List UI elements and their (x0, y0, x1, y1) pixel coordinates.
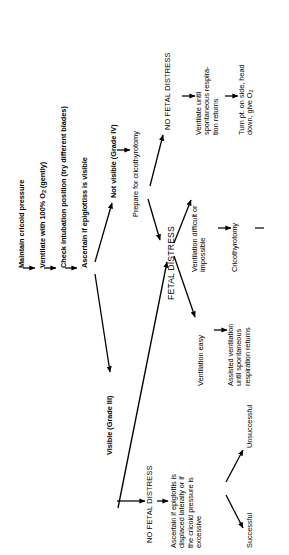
node-unsuccessful: Unsuccessful (246, 405, 254, 448)
node-no-fetal-distress-top: NO FETAL DISTRESS (164, 52, 172, 130)
edge-outcome-branch (226, 450, 243, 528)
oxygen-subscript-2: 2 (248, 90, 254, 93)
node-ventilate-until-spontaneous: Ventilate until spontaneous respira- tio… (195, 27, 220, 135)
node-fetal-distress: FETAL DISTRESS (167, 226, 177, 300)
node-visible-grade-iii: Visible (Grade III) (106, 396, 114, 455)
node-ascertain-epiglottis-displaced: Ascertain if epiglottis is displaced lat… (170, 440, 204, 548)
turn-pt-give-o2-text: down, give O (245, 92, 254, 135)
node-ascertain-epiglottis-visible: Ascertain if epiglottiss is visible (81, 157, 89, 268)
flowchart-figure: Maintain cricoid pressure Ventilate with… (0, 0, 289, 555)
node-turn-patient-side-head-down: Turn pt. on side, head down, give O2 (238, 27, 255, 135)
edge-ascertain-branch (95, 203, 112, 372)
node-ventilation-difficult-impossible: Ventilation difficult or impossible (191, 164, 208, 272)
node-prepare-for-cricothyrotomy: Prepare for cricothyrotomy (132, 131, 140, 217)
node-not-visible-grade-iv: Not visible (Grade IV) (110, 124, 118, 198)
edge-unsuccessful-feedback (118, 262, 167, 508)
node-check-intubation-position: Check intubation position (try different… (60, 106, 68, 268)
node-ventilate-100-oxygen: Ventilate with 100% O2 (gently) (39, 162, 47, 268)
oxygen-subscript: 2 (41, 190, 47, 193)
node-no-fetal-distress-bottom: NO FETAL DISTRESS (146, 465, 154, 543)
node-maintain-cricoid-pressure: Maintain cricoid pressure (18, 180, 26, 268)
edge-prepare-branch (148, 135, 163, 240)
ventilate-gently-text: (gently) (38, 162, 47, 190)
ventilate-100-text: Ventilate with 100% O (38, 193, 47, 268)
node-assisted-ventilation: Assisted ventilation until spontaneous r… (227, 278, 252, 386)
node-ventilation-easy: Ventilation easy (197, 335, 205, 386)
node-successful: Successful (246, 513, 254, 548)
node-cricothyrotomy: Cricothyrotomy (231, 223, 239, 272)
